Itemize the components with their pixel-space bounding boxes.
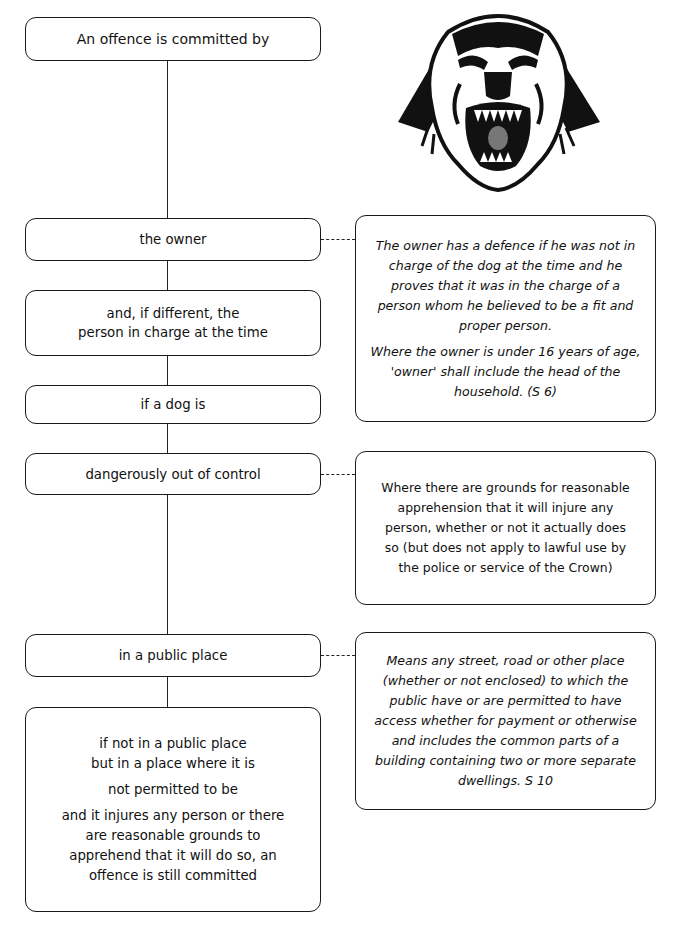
flow-box-text: dangerously out of control	[85, 465, 260, 484]
flow-box-text: the owner	[139, 230, 206, 249]
note-public-place-definition: Means any street, road or other place (w…	[355, 632, 656, 810]
flow-connector	[167, 424, 168, 453]
flow-box-out-of-control: dangerously out of control	[25, 453, 321, 495]
flow-box-text: person in charge at the time	[78, 323, 268, 342]
note-connector-owner	[321, 239, 355, 240]
flow-connector	[167, 61, 168, 218]
note-owner-defence: The owner has a defence if he was not in…	[355, 215, 656, 422]
note-text: The owner has a defence if he was not in…	[368, 236, 643, 336]
flow-box-text: if not in a public place but in a place …	[50, 734, 296, 774]
flow-box-text: not permitted to be	[108, 780, 238, 800]
note-text: Where the owner is under 16 years of age…	[368, 342, 643, 402]
flow-connector	[167, 356, 168, 385]
flow-box-text: and, if different, the	[107, 304, 240, 323]
flow-box-text: An offence is committed by	[77, 30, 270, 49]
flow-box-if-dog: if a dog is	[25, 385, 321, 424]
flow-box-start: An offence is committed by	[25, 17, 321, 61]
flow-box-public-place: in a public place	[25, 634, 321, 677]
flow-box-text: in a public place	[119, 646, 228, 665]
flow-box-person-in-charge: and, if different, the person in charge …	[25, 290, 321, 356]
note-connector-public-place	[321, 655, 355, 656]
flow-connector	[167, 261, 168, 290]
note-text: Where there are grounds for reasonable a…	[378, 478, 633, 578]
flow-box-text: and it injures any person or there are r…	[50, 806, 296, 886]
flow-box-owner: the owner	[25, 218, 321, 261]
flow-connector	[167, 677, 168, 707]
note-connector-out-of-control	[321, 474, 355, 475]
note-out-of-control-definition: Where there are grounds for reasonable a…	[355, 451, 656, 605]
flow-box-text: if a dog is	[141, 395, 206, 414]
snarling-dog-head-icon	[388, 4, 608, 194]
flow-box-not-permitted: if not in a public place but in a place …	[25, 707, 321, 912]
flow-connector	[167, 495, 168, 634]
note-text: Means any street, road or other place (w…	[368, 651, 643, 791]
